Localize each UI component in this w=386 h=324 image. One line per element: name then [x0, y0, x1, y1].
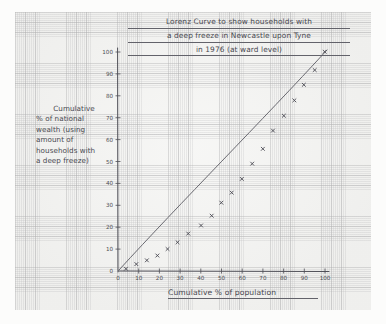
data-point	[135, 263, 138, 266]
x-tick-label: 90	[301, 275, 309, 281]
y-tick-label: 0	[109, 268, 113, 274]
x-tick-label: 100	[320, 275, 331, 281]
data-point	[230, 191, 233, 194]
x-tick-label: 20	[156, 275, 164, 281]
x-tick-label: 70	[259, 275, 267, 281]
x-tick-label: 80	[280, 275, 288, 281]
y-tick-label: 60	[106, 137, 114, 143]
data-point	[240, 177, 243, 180]
x-tick-label: 50	[218, 275, 226, 281]
y-tick-label: 40	[106, 180, 114, 186]
y-tick-label: 20	[106, 224, 114, 230]
data-point	[187, 232, 190, 235]
data-point	[293, 99, 296, 102]
x-tick-label: 30	[177, 275, 185, 281]
x-tick-label: 60	[239, 275, 247, 281]
data-point	[220, 201, 223, 204]
data-point	[176, 241, 179, 244]
screenshot-page: Lorenz Curve to show households with a d…	[0, 0, 386, 324]
y-tick-label: 90	[106, 71, 114, 77]
y-tick-label: 100	[102, 49, 113, 55]
x-tick-label: 0	[116, 275, 120, 281]
y-tick-label: 70	[106, 115, 114, 121]
data-point	[210, 214, 213, 217]
data-point	[302, 83, 305, 86]
data-point	[251, 162, 254, 165]
data-point	[145, 259, 148, 262]
x-tick-label: 40	[197, 275, 205, 281]
y-tick-label: 50	[106, 159, 114, 165]
x-tick-labels: 0102030405060708090100	[116, 275, 331, 281]
plot-area: 0102030405060708090100 01020304050607080…	[0, 0, 386, 324]
x-tick-label: 10	[135, 275, 143, 281]
data-point	[282, 114, 285, 117]
y-tick-labels: 0102030405060708090100	[102, 49, 113, 274]
data-point	[313, 68, 316, 71]
data-point	[199, 224, 202, 227]
line-of-equality	[119, 50, 327, 270]
data-point	[271, 129, 274, 132]
data-point	[166, 247, 169, 250]
data-point	[156, 254, 159, 257]
y-tick-label: 30	[106, 202, 114, 208]
data-point	[261, 147, 264, 150]
data-point	[124, 267, 127, 270]
y-tick-label: 80	[106, 93, 114, 99]
y-tick-label: 10	[106, 246, 114, 252]
